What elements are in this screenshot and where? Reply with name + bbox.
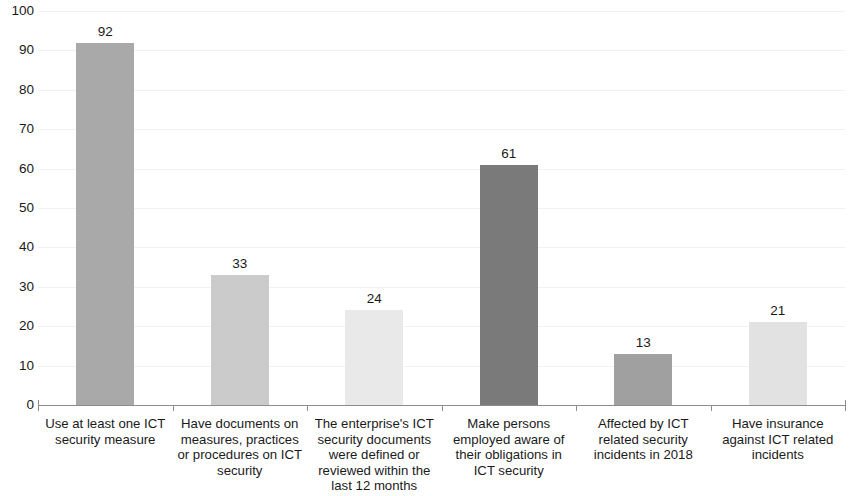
x-axis-category-label: Use at least one ICTsecurity measure — [32, 416, 179, 447]
bar — [749, 322, 807, 405]
bar-value-label: 33 — [200, 257, 280, 271]
x-axis-category-label-line: security — [167, 463, 314, 479]
x-axis-category-label-line: Make persons — [436, 416, 583, 432]
x-axis-tick — [442, 405, 443, 411]
bar — [480, 165, 538, 405]
bar — [76, 43, 134, 405]
x-axis-category-label-line: reviewed within the — [301, 463, 448, 479]
x-axis-category-label-line: Affected by ICT — [570, 416, 717, 432]
x-axis-end-cap — [38, 400, 39, 406]
bar-value-label: 24 — [334, 292, 414, 306]
y-axis-tick-label: 20 — [0, 319, 34, 333]
x-axis-category-label-line: their obligations in — [436, 447, 583, 463]
x-axis-category-label-line: related security — [570, 432, 717, 448]
x-axis-category-label-line: ICT security — [436, 463, 583, 479]
x-axis-end-cap — [845, 400, 846, 406]
y-axis-tick-label: 100 — [0, 4, 34, 18]
y-axis-tick-label: 50 — [0, 201, 34, 215]
x-axis-category-label-line: against ICT related — [705, 432, 851, 448]
bar-value-label: 13 — [603, 336, 683, 350]
x-axis-category-label-line: or procedures on ICT — [167, 447, 314, 463]
y-axis-tick-label: 30 — [0, 280, 34, 294]
x-axis-category-label-line: incidents in 2018 — [570, 447, 717, 463]
x-axis-tick — [576, 405, 577, 411]
bar-value-label: 61 — [469, 147, 549, 161]
x-axis-tick — [173, 405, 174, 411]
bars-layer: 923324611321 — [38, 11, 845, 405]
x-axis-tick — [711, 405, 712, 411]
x-axis-category-label-line: Have documents on — [167, 416, 314, 432]
y-axis-tick-label: 70 — [0, 122, 34, 136]
x-axis-category-label-line: Use at least one ICT — [32, 416, 179, 432]
x-axis-category-label-line: were defined or — [301, 447, 448, 463]
x-axis-tick — [307, 405, 308, 411]
y-axis-tick-label: 60 — [0, 162, 34, 176]
x-axis-category-label: Have insuranceagainst ICT relatedinciden… — [705, 416, 851, 463]
x-axis-category-label: Make personsemployed aware oftheir oblig… — [436, 416, 583, 478]
y-axis-tick-label: 0 — [0, 398, 34, 412]
x-axis-category-label-line: last 12 months — [301, 478, 448, 494]
x-axis-category-label-line: incidents — [705, 447, 851, 463]
x-axis-category-label-line: security measure — [32, 432, 179, 448]
y-axis-tick-label: 40 — [0, 241, 34, 255]
x-axis-category-label-line: Have insurance — [705, 416, 851, 432]
y-axis: 0102030405060708090100 — [0, 0, 34, 410]
x-axis-category-label-line: measures, practices — [167, 432, 314, 448]
x-axis-category-label: Affected by ICTrelated securityincidents… — [570, 416, 717, 463]
bar — [345, 310, 403, 405]
y-axis-tick-label: 90 — [0, 44, 34, 58]
bar — [211, 275, 269, 405]
bar-chart: 0102030405060708090100 923324611321 Use … — [0, 0, 851, 496]
x-axis-category-label: Have documents onmeasures, practicesor p… — [167, 416, 314, 478]
y-axis-tick-label: 80 — [0, 83, 34, 97]
x-axis-category-label-line: The enterprise's ICT — [301, 416, 448, 432]
x-axis-category-label: The enterprise's ICTsecurity documentswe… — [301, 416, 448, 494]
bar-value-label: 92 — [65, 25, 145, 39]
y-axis-tick-label: 10 — [0, 359, 34, 373]
x-axis-category-label-line: employed aware of — [436, 432, 583, 448]
bar — [614, 354, 672, 405]
x-axis-category-label-line: security documents — [301, 432, 448, 448]
x-axis-category-labels: Use at least one ICTsecurity measureHave… — [38, 416, 845, 496]
bar-value-label: 21 — [738, 304, 818, 318]
